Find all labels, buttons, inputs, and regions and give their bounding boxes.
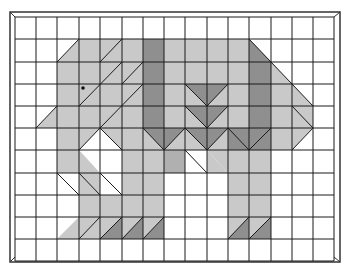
eye-icon bbox=[81, 86, 85, 90]
elephant-mosaic bbox=[0, 0, 350, 272]
elephant-shading bbox=[164, 150, 185, 173]
